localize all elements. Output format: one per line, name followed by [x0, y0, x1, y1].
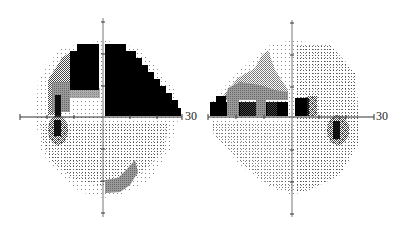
left-dark-column	[55, 95, 61, 117]
blind-spot-core-left	[54, 120, 61, 136]
superior-band-dense-defect-b	[216, 96, 226, 104]
axis-extent-label-left: 30	[185, 109, 197, 124]
visual-field-right-svg	[200, 0, 403, 231]
visual-field-left-svg	[0, 0, 200, 231]
superior-right-paracentral-check	[307, 96, 317, 116]
superior-band-gray-1	[227, 100, 239, 116]
visual-field-left: 30	[0, 0, 200, 231]
superior-band-gray-2	[256, 100, 266, 116]
blind-spot-core-right	[333, 121, 340, 139]
superior-band-check-2	[267, 102, 277, 116]
superior-right-paracentral-defect	[295, 98, 309, 116]
field-right-dots	[295, 44, 358, 193]
axis-extent-label-right: 30	[376, 109, 388, 124]
field-inferior-left-dots	[212, 122, 292, 192]
superior-band-check-1	[240, 102, 256, 116]
visual-field-right: 30	[200, 0, 403, 231]
